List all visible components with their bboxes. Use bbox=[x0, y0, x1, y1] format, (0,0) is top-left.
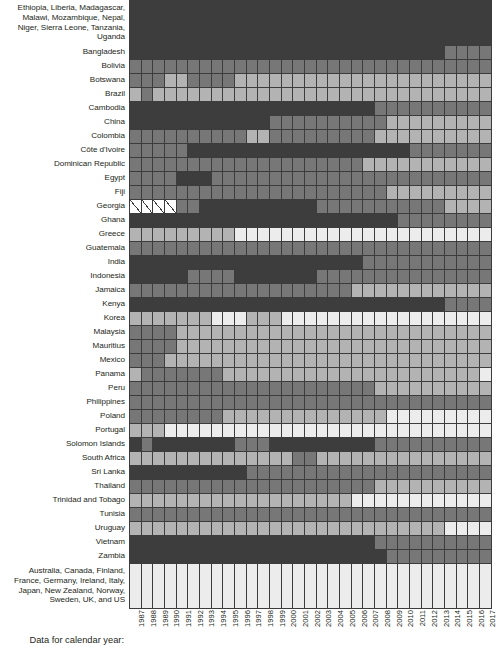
heatmap-row bbox=[130, 172, 492, 186]
heatmap-cell bbox=[468, 494, 480, 508]
heatmap-cell bbox=[177, 130, 189, 144]
heatmap-cell bbox=[177, 200, 189, 214]
heatmap-cell bbox=[375, 186, 387, 200]
heatmap-cell bbox=[130, 172, 142, 186]
heatmap-cell bbox=[165, 396, 177, 410]
heatmap-cell bbox=[328, 130, 340, 144]
heatmap-cell bbox=[457, 228, 469, 242]
heatmap-cell bbox=[247, 88, 259, 102]
row-label: Malaysia bbox=[0, 325, 125, 339]
heatmap-cell bbox=[282, 256, 294, 270]
heatmap-cell bbox=[247, 438, 259, 452]
heatmap-cell bbox=[235, 354, 247, 368]
heatmap-cell bbox=[282, 116, 294, 130]
heatmap-cell bbox=[130, 74, 142, 88]
heatmap-cell bbox=[165, 172, 177, 186]
heatmap-cell bbox=[142, 256, 154, 270]
heatmap-cell bbox=[130, 130, 142, 144]
heatmap-cell bbox=[142, 494, 154, 508]
heatmap-cell bbox=[433, 522, 445, 536]
heatmap-cell bbox=[235, 102, 247, 116]
heatmap-cell bbox=[375, 564, 387, 609]
heatmap-cell bbox=[235, 284, 247, 298]
heatmap-cell bbox=[480, 424, 492, 438]
heatmap-cell bbox=[340, 256, 352, 270]
heatmap-cell bbox=[375, 60, 387, 74]
heatmap-cell bbox=[142, 102, 154, 116]
heatmap-cell bbox=[433, 242, 445, 256]
heatmap-cell bbox=[363, 368, 375, 382]
heatmap-cell bbox=[375, 354, 387, 368]
heatmap-cell bbox=[200, 200, 212, 214]
heatmap-cell bbox=[363, 508, 375, 522]
heatmap-cell bbox=[153, 1, 165, 46]
heatmap-cell bbox=[480, 242, 492, 256]
heatmap-cell bbox=[457, 466, 469, 480]
heatmap-cell bbox=[153, 74, 165, 88]
heatmap-cell bbox=[328, 256, 340, 270]
heatmap-row bbox=[130, 130, 492, 144]
heatmap-cell bbox=[153, 284, 165, 298]
heatmap-cell bbox=[317, 46, 329, 60]
heatmap-cell bbox=[328, 396, 340, 410]
heatmap-cell bbox=[235, 452, 247, 466]
heatmap-cell bbox=[457, 396, 469, 410]
heatmap-cell bbox=[177, 102, 189, 116]
heatmap-cell bbox=[165, 158, 177, 172]
row-label: Cambodia bbox=[0, 101, 125, 115]
year-tick: 1994 bbox=[211, 609, 223, 643]
heatmap-cell bbox=[212, 158, 224, 172]
heatmap-cell bbox=[410, 382, 422, 396]
heatmap-cell bbox=[317, 60, 329, 74]
heatmap-cell bbox=[305, 116, 317, 130]
heatmap-cell bbox=[398, 186, 410, 200]
year-tick: 1987 bbox=[129, 609, 141, 643]
heatmap-cell bbox=[177, 550, 189, 564]
heatmap-row bbox=[130, 312, 492, 326]
heatmap-cell bbox=[480, 116, 492, 130]
heatmap-cell bbox=[305, 214, 317, 228]
heatmap-cell bbox=[282, 410, 294, 424]
heatmap-cell bbox=[433, 284, 445, 298]
row-label: Kenya bbox=[0, 297, 125, 311]
heatmap-cell bbox=[468, 228, 480, 242]
heatmap-cell bbox=[445, 424, 457, 438]
heatmap-cell bbox=[352, 508, 364, 522]
heatmap-cell bbox=[142, 396, 154, 410]
heatmap-cell bbox=[235, 424, 247, 438]
heatmap-cell bbox=[212, 312, 224, 326]
heatmap-cell bbox=[200, 116, 212, 130]
heatmap-cell bbox=[410, 270, 422, 284]
heatmap-cell bbox=[270, 172, 282, 186]
heatmap-cell bbox=[223, 480, 235, 494]
heatmap-cell bbox=[468, 536, 480, 550]
heatmap-cell bbox=[188, 284, 200, 298]
heatmap-cell bbox=[130, 382, 142, 396]
heatmap-cell bbox=[223, 410, 235, 424]
heatmap-cell bbox=[433, 186, 445, 200]
heatmap-cell bbox=[328, 144, 340, 158]
heatmap-cell bbox=[340, 46, 352, 60]
row-label: Côte d'Ivoire bbox=[0, 143, 125, 157]
heatmap-cell bbox=[410, 438, 422, 452]
heatmap-cell bbox=[468, 550, 480, 564]
heatmap-cell bbox=[375, 452, 387, 466]
heatmap-cell bbox=[165, 186, 177, 200]
heatmap-cell bbox=[142, 298, 154, 312]
row-label: Uruguay bbox=[0, 521, 125, 535]
heatmap-cell bbox=[468, 382, 480, 396]
heatmap-cell bbox=[200, 340, 212, 354]
heatmap-cell bbox=[165, 382, 177, 396]
year-tick: 2002 bbox=[305, 609, 317, 643]
heatmap-row bbox=[130, 200, 492, 214]
heatmap-cell bbox=[457, 508, 469, 522]
heatmap-cell bbox=[153, 298, 165, 312]
heatmap-cell bbox=[422, 172, 434, 186]
year-tick: 2005 bbox=[340, 609, 352, 643]
heatmap-cell bbox=[212, 130, 224, 144]
heatmap-cell bbox=[212, 116, 224, 130]
heatmap-cell bbox=[363, 284, 375, 298]
heatmap-cell bbox=[305, 200, 317, 214]
heatmap-cell bbox=[340, 200, 352, 214]
heatmap-cell bbox=[480, 214, 492, 228]
